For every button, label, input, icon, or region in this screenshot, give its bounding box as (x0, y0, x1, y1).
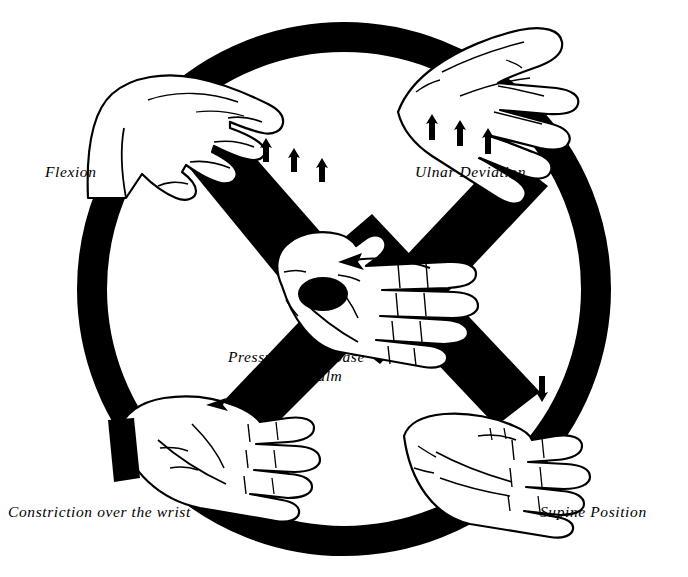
label-pressure-at-base-of-palm: Pressure at the base of the palm (228, 348, 418, 386)
label-flexion: Flexion (45, 163, 97, 182)
label-pressure-line-1: Pressure at the base (228, 348, 365, 365)
label-supine-position: Supine Position (540, 503, 647, 522)
label-constriction-over-the-wrist: Constriction over the wrist (8, 503, 191, 522)
hand-positions-diagram (0, 0, 688, 577)
label-pressure-line-2: of the palm (228, 367, 418, 386)
label-ulnar-deviation: Ulnar Deviation (415, 163, 526, 182)
pressure-spot (298, 277, 348, 311)
